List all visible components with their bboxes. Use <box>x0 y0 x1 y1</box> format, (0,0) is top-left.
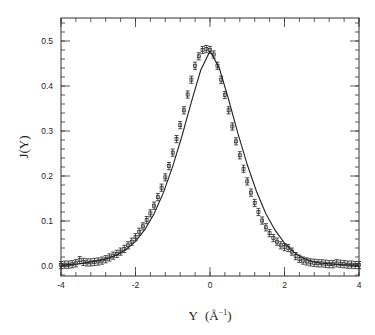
y-tick-label: 0.0 <box>41 261 53 271</box>
x-axis-title-main: Y <box>189 308 199 323</box>
x-tick-label: -4 <box>57 280 65 290</box>
x-axis-title-exponent: −1 <box>219 308 228 317</box>
x-axis-title-close: ) <box>227 308 231 323</box>
y-tick-label: 0.4 <box>41 81 53 91</box>
x-tick-label: -2 <box>132 280 140 290</box>
chart-figure: -4-2024 0.00.10.20.30.40.5 J(Y) Y(Å−1) <box>0 0 375 335</box>
y-axis-title: J(Y) <box>16 135 31 158</box>
x-tick-label: 2 <box>282 280 287 290</box>
y-tick-label: 0.5 <box>41 36 53 46</box>
x-tick-label: 4 <box>357 280 362 290</box>
y-tick-label: 0.2 <box>41 171 53 181</box>
x-axis-title-unit: (Å <box>205 308 219 323</box>
y-tick-label: 0.3 <box>41 126 53 136</box>
x-tick-label: 0 <box>208 280 213 290</box>
y-tick-label: 0.1 <box>41 216 53 226</box>
